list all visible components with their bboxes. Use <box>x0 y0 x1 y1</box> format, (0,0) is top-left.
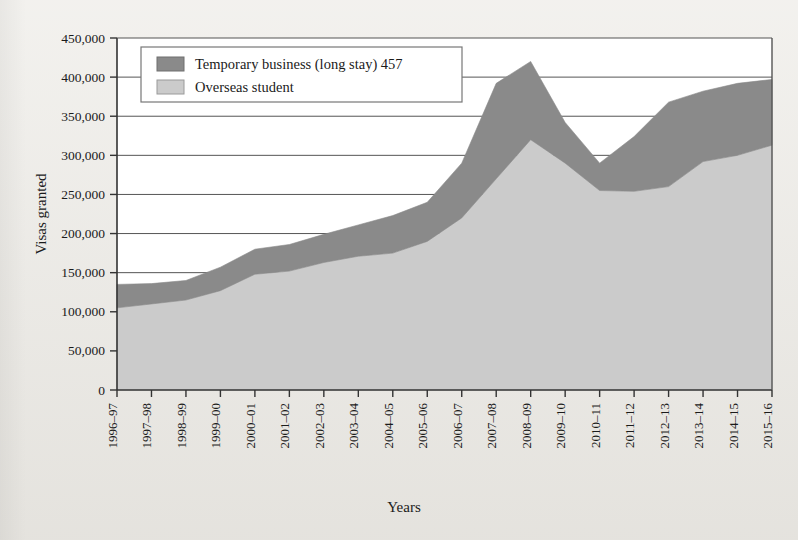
x-tick-label-2001–02: 2001–02 <box>277 403 292 449</box>
x-tick-label-2003–04: 2003–04 <box>346 403 361 449</box>
x-tick-label-2012–13: 2012–13 <box>657 403 672 449</box>
visas-granted-area-chart: 050,000100,000150,000200,000250,000300,0… <box>0 0 798 540</box>
y-tick-label-400000: 400,000 <box>61 70 105 85</box>
x-tick-label-2007–08: 2007–08 <box>484 403 499 449</box>
legend-swatch-overseas-student <box>157 80 184 94</box>
x-tick-label-2011–12: 2011–12 <box>622 403 637 448</box>
legend-label-overseas-student: Overseas student <box>195 79 294 95</box>
y-tick-label-150000: 150,000 <box>61 265 105 280</box>
chart-legend: Temporary business (long stay) 457 Overs… <box>141 47 462 102</box>
x-tick-label-2010–11: 2010–11 <box>588 403 603 448</box>
chart-figure: 050,000100,000150,000200,000250,000300,0… <box>0 0 798 540</box>
x-tick-label-2005–06: 2005–06 <box>415 403 430 449</box>
x-tick-label-2009–10: 2009–10 <box>553 403 568 449</box>
legend-swatch-temporary-business <box>157 57 184 71</box>
legend-label-temporary-business: Temporary business (long stay) 457 <box>195 56 403 73</box>
y-tick-label-0: 0 <box>98 383 105 398</box>
x-tick-label-2002–03: 2002–03 <box>312 403 327 449</box>
y-axis-title: Visas granted <box>33 173 49 255</box>
x-tick-label-2013–14: 2013–14 <box>691 403 706 449</box>
x-tick-label-1999–00: 1999–00 <box>208 403 223 449</box>
x-axis-ticks: 1996–971997–981998–991999–002000–012001–… <box>105 390 775 449</box>
y-tick-label-300000: 300,000 <box>61 148 105 163</box>
y-tick-label-50000: 50,000 <box>68 343 105 358</box>
x-tick-label-1996–97: 1996–97 <box>105 403 120 449</box>
x-axis-title: Years <box>387 499 421 515</box>
y-tick-label-200000: 200,000 <box>61 226 105 241</box>
y-axis-ticks: 050,000100,000150,000200,000250,000300,0… <box>61 31 117 398</box>
y-tick-label-100000: 100,000 <box>61 304 105 319</box>
x-tick-label-1998–99: 1998–99 <box>174 403 189 449</box>
x-tick-label-2004–05: 2004–05 <box>381 403 396 449</box>
x-tick-label-2008–09: 2008–09 <box>519 403 534 449</box>
x-tick-label-2014–15: 2014–15 <box>726 403 741 449</box>
y-tick-label-450000: 450,000 <box>61 31 105 46</box>
x-tick-label-1997–98: 1997–98 <box>139 403 154 449</box>
y-tick-label-250000: 250,000 <box>61 187 105 202</box>
x-tick-label-2015–16: 2015–16 <box>760 403 775 449</box>
y-tick-label-350000: 350,000 <box>61 109 105 124</box>
x-tick-label-2000–01: 2000–01 <box>243 403 258 449</box>
x-tick-label-2006–07: 2006–07 <box>450 403 465 449</box>
